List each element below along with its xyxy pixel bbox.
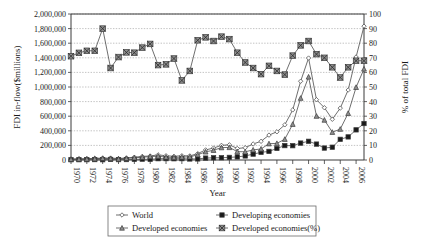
legend-label: Developing economies [232,210,310,220]
x-axis-title: Year [209,188,226,198]
x-axis-tick-label: 1998 [294,167,303,183]
data-point-x-cross [163,62,169,68]
data-point-x-cross [234,50,240,56]
data-point-triangle-grey [338,127,343,132]
data-point-x-cross [219,34,225,40]
series-3 [68,26,367,83]
data-point-square-solid [306,139,310,143]
data-point-x-cross [108,65,114,71]
data-point-square-solid [362,121,366,125]
data-point-square-solid [314,142,318,146]
y-axis-tick-label: 400,000 [40,127,66,136]
series-2 [69,66,367,161]
data-point-diamond-open [362,24,366,28]
y-axis-tick-label: 1,200,000 [34,68,66,77]
data-point-x-cross [211,38,217,44]
data-point-x-cross [266,63,272,69]
grid-layer [71,14,364,145]
data-point-triangle-grey [346,111,351,116]
data-point-x-cross [274,68,280,74]
data-point-square-solid [346,135,350,139]
data-point-x-cross [100,26,106,32]
data-point-x-cross [337,75,343,81]
y2-axis-tick-label: 100 [369,10,381,19]
axes-layer [68,14,367,164]
data-point-square-solid [267,149,271,153]
x-axis-tick-label: 1980 [151,167,160,183]
fdi-chart-figure: 00200,00010400,00020600,00030800,000401,… [0,0,424,243]
data-point-square-solid [322,146,326,150]
data-point-x-cross [282,72,288,78]
x-axis-tick-label: 1988 [215,167,224,183]
series-0 [69,24,366,161]
x-axis-tick-label: 1996 [278,167,287,183]
y-axis-tick-label: 200,000 [40,141,66,150]
data-point-square-solid [243,154,247,158]
x-axis-tick-label: 1974 [104,167,113,183]
y-axis-tick-label: 800,000 [40,98,66,107]
data-point-x-cross [124,50,130,56]
x-axis-tick-label: 2004 [341,167,350,183]
y-axis-tick-label: 600,000 [40,112,66,121]
data-point-x-cross [76,50,82,56]
y2-axis-tick-label: 80 [369,39,377,48]
series-1 [69,121,366,162]
data-point-square-solid [219,156,223,160]
data-point-square-solid [220,213,224,217]
x-axis-tick-label: 1978 [136,167,145,183]
y-axis-tick-label: 1,400,000 [34,54,66,63]
data-point-x-cross [171,56,177,62]
data-point-x-cross [92,48,98,54]
data-point-x-cross [187,68,193,74]
y-axis-tick-label: 1,000,000 [34,83,66,92]
data-point-x-cross [345,64,351,70]
x-axis-tick-label: 2006 [357,167,366,183]
data-point-square-solid [211,156,215,160]
data-point-x-cross [361,58,367,64]
data-point-diamond-open [306,56,310,60]
data-point-x-cross [330,64,336,70]
y-axis-title: FDI in-flow($millions) [12,45,22,128]
y2-axis-tick-label: 30 [369,112,377,121]
data-point-x-cross [290,53,296,59]
y2-axis-tick-label: 40 [369,98,377,107]
data-point-x-cross [242,60,248,66]
data-point-triangle-grey [306,74,311,79]
legend-label: Developed economies [132,223,207,233]
x-axis-tick-label: 1970 [72,167,81,183]
y-axis-tick-label: 1,800,000 [34,25,66,34]
x-axis-tick-label: 1994 [262,167,271,183]
x-axis-tick-label: 2000 [310,167,319,183]
x-axis-tick-label: 1986 [199,167,208,183]
data-point-diamond-open [346,88,350,92]
data-point-x-cross [147,41,153,47]
data-point-square-solid [227,155,231,159]
data-point-triangle-grey [322,118,327,123]
y2-axis-tick-label: 0 [369,156,373,165]
data-point-x-cross [219,225,225,231]
data-point-x-cross [306,38,312,44]
chart-legend: WorldDeveloping economiesDeveloped econo… [108,206,320,236]
data-point-square-solid [330,145,334,149]
data-point-x-cross [250,65,256,71]
data-point-x-cross [84,48,90,54]
y2-axis-tick-label: 20 [369,127,377,136]
x-axis-tick-label: 1982 [167,167,176,183]
y2-axis-tick-label: 60 [369,68,377,77]
data-point-x-cross [68,53,74,59]
data-point-x-cross [322,55,328,61]
data-point-square-solid [354,128,358,132]
data-point-triangle-grey [362,66,367,71]
data-point-square-solid [251,152,255,156]
legend-item-developed-economies[interactable]: Developed economies(%) [216,223,320,233]
x-axis-tick-label: 1972 [88,167,97,183]
data-point-triangle-grey [282,137,287,142]
data-point-x-cross [179,78,185,84]
y2-axis-tick-label: 70 [369,54,377,63]
data-point-x-cross [258,71,264,77]
data-point-square-solid [283,143,287,147]
y2-axis-tick-label: 90 [369,25,377,34]
data-point-square-solid [196,157,200,161]
data-point-x-cross [155,62,161,68]
data-point-x-cross [195,37,201,43]
